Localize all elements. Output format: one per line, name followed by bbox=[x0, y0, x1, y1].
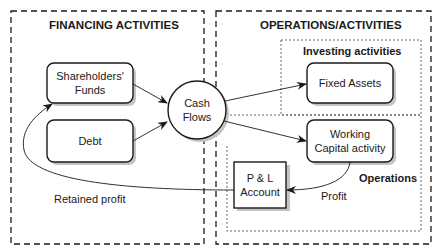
arrow-cashflows-to-fixed-assets bbox=[225, 84, 306, 101]
operations-section-title: OPERATIONS/ACTIVITIES bbox=[260, 19, 402, 32]
arrow-shareholders-to-cashflows bbox=[133, 84, 167, 103]
shareholders-line2: Funds bbox=[75, 83, 106, 97]
operations-subsection-title: Operations bbox=[359, 172, 417, 185]
arrow-working-capital-to-pl bbox=[287, 162, 350, 190]
pl-line2: Account bbox=[240, 185, 280, 199]
debt-label: Debt bbox=[47, 120, 133, 162]
shareholders-funds-label: Shareholders' Funds bbox=[47, 63, 133, 103]
pl-account-label: P & L Account bbox=[234, 162, 286, 208]
investing-subsection-title: Investing activities bbox=[303, 45, 401, 58]
cash-flows-line1: Cash bbox=[184, 96, 210, 110]
working-capital-line1: Working bbox=[330, 127, 370, 141]
profit-edge-label: Profit bbox=[321, 190, 347, 203]
financing-section-title: FINANCING ACTIVITIES bbox=[49, 19, 179, 32]
working-capital-label: Working Capital activity bbox=[307, 120, 393, 162]
arrow-cashflows-to-working-capital bbox=[224, 121, 306, 141]
cash-flows-line2: Flows bbox=[183, 110, 212, 124]
arrow-debt-to-cashflows bbox=[133, 122, 167, 141]
working-capital-line2: Capital activity bbox=[315, 141, 386, 155]
cash-flows-label: Cash Flows bbox=[168, 81, 226, 139]
fixed-assets-label: Fixed Assets bbox=[307, 63, 393, 103]
pl-line1: P & L bbox=[247, 171, 274, 185]
retained-profit-edge-label: Retained profit bbox=[54, 193, 126, 206]
shareholders-line1: Shareholders' bbox=[56, 69, 124, 83]
